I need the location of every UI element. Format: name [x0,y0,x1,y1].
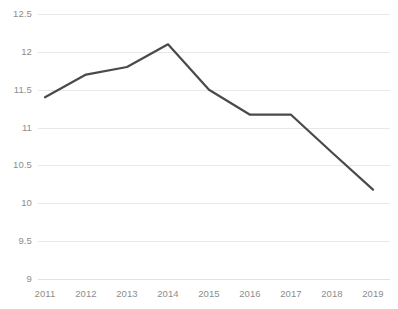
series-line-layer [0,0,398,309]
y-axis-tick-label: 12.5 [0,8,32,19]
x-axis-tick-label: 2017 [271,288,311,299]
series-line [45,44,373,189]
y-axis-tick-label: 10 [0,197,32,208]
line-chart: 99.51010.51111.51212.5201120122013201420… [0,0,398,309]
x-axis-tick-label: 2014 [148,288,188,299]
y-axis-tick-label: 11.5 [0,84,32,95]
y-axis-tick-label: 9 [0,273,32,284]
x-axis-tick-label: 2019 [353,288,393,299]
y-axis-tick-label: 11 [0,122,32,133]
y-axis-tick-label: 12 [0,46,32,57]
x-axis-tick-label: 2015 [189,288,229,299]
x-axis-tick-label: 2011 [25,288,65,299]
x-axis-tick-label: 2013 [107,288,147,299]
y-axis-tick-label: 10.5 [0,159,32,170]
y-axis-tick-label: 9.5 [0,235,32,246]
x-axis-tick-label: 2018 [312,288,352,299]
x-axis-tick-label: 2016 [230,288,270,299]
x-axis-tick-label: 2012 [66,288,106,299]
